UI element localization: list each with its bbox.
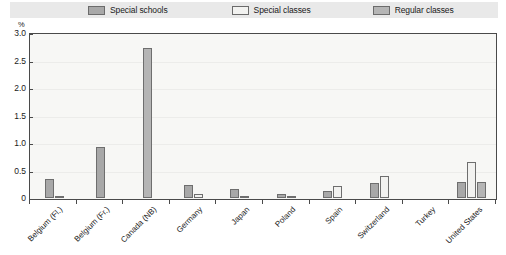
legend-item-label: Regular classes [395,5,454,15]
x-axis-tick-label: Canada (NB) [118,205,157,244]
y-axis-tick-label: 1.5 [2,111,26,121]
plot-area [29,33,497,200]
x-axis-labels: Belgium (Fl.)Belgium (Fr.)Canada (NB)Ger… [0,200,506,255]
legend-item-special-schools[interactable]: Special schools [88,5,168,15]
bar[interactable] [143,48,152,198]
legend-swatch-mid-icon [373,6,390,15]
plot-background [29,33,497,200]
y-axis-tick [29,117,33,118]
legend-item-label: Special classes [254,5,311,15]
bar[interactable] [287,196,296,198]
chart-page: Special schools Special classes Regular … [0,0,506,255]
bar[interactable] [323,191,332,198]
bar[interactable] [184,185,193,198]
y-axis-tick [29,34,33,35]
x-axis-tick-label: Belgium (Fr.) [73,205,112,244]
bar[interactable] [370,183,379,198]
x-axis-tick-label: Switzerland [355,205,391,241]
y-axis-tick-label: 3.0 [2,28,26,38]
chart-legend: Special schools Special classes Regular … [10,2,498,18]
x-axis-tick-label: Germany [175,205,205,235]
legend-item-regular-classes[interactable]: Regular classes [373,5,454,15]
legend-swatch-dark-icon [88,6,105,15]
y-axis-tick [29,172,33,173]
y-axis-tick [29,62,33,63]
bar[interactable] [467,162,476,198]
bar-group [449,35,495,198]
x-axis-tick-label: Japan [229,205,251,227]
bar-group [217,35,263,198]
bar[interactable] [240,196,249,198]
bar[interactable] [277,194,286,198]
bar[interactable] [230,189,239,198]
bar[interactable] [45,179,54,198]
x-axis-tick-label: Turkey [414,205,437,228]
y-axis-tick-label: 2.0 [2,83,26,93]
bar[interactable] [333,186,342,198]
bar[interactable] [55,196,64,198]
bar-group [402,35,448,198]
bar-group [124,35,170,198]
y-axis-tick [29,144,33,145]
legend-item-label: Special schools [110,5,168,15]
legend-item-special-classes[interactable]: Special classes [232,5,311,15]
bar[interactable] [380,176,389,198]
bar[interactable] [194,194,203,198]
legend-swatch-light-icon [232,6,249,15]
bar[interactable] [477,182,486,199]
y-axis-tick-label: 2.5 [2,56,26,66]
x-axis-tick-label: Spain [323,205,344,226]
x-axis-tick-label: United States [444,205,484,245]
bar-group [263,35,309,198]
bar-group [356,35,402,198]
bar-groups [31,35,495,198]
bar-group [77,35,123,198]
y-axis-tick [29,89,33,90]
y-axis-labels: 3.02.52.01.51.00.50 [0,33,26,200]
bar-group [31,35,77,198]
y-axis-tick-label: 1.0 [2,138,26,148]
x-axis-tick-label: Belgium (Fl.) [26,205,64,243]
bar[interactable] [457,182,466,199]
bar-group [170,35,216,198]
bar[interactable] [96,147,105,198]
y-axis-tick-label: 0.5 [2,166,26,176]
x-axis-tick-label: Poland [274,205,298,229]
bar-group [309,35,355,198]
